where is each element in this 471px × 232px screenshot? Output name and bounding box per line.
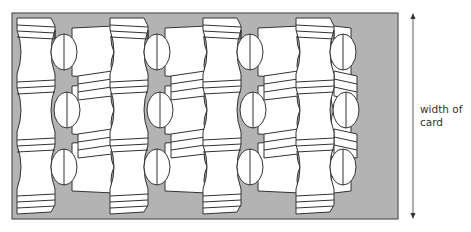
slanted-strip (78, 71, 112, 100)
slanted-strip (264, 129, 298, 158)
vertical-pillar (17, 18, 55, 214)
label-line-1: width of (420, 103, 462, 116)
woven-card-diagram (0, 0, 471, 232)
vertical-pillar (296, 18, 334, 214)
slanted-strip (171, 71, 205, 100)
vertical-pillar (110, 18, 148, 214)
horizontal-band (165, 26, 207, 78)
horizontal-band (72, 26, 114, 78)
horizontal-band (258, 26, 300, 78)
width-of-card-label: width of card (420, 103, 462, 129)
vertical-pillar (203, 18, 241, 214)
slanted-strip (78, 129, 112, 158)
slanted-strip (171, 129, 205, 158)
width-arrow (411, 13, 416, 219)
label-line-2: card (420, 116, 462, 129)
slanted-strip (264, 71, 298, 100)
